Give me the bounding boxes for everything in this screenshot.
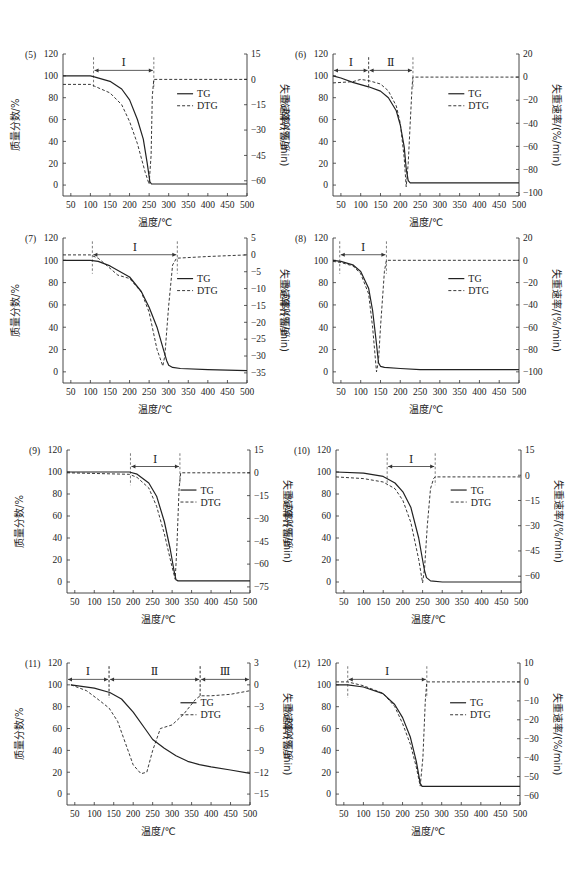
dtg-curve	[336, 682, 520, 786]
legend-dtg: DTG	[200, 497, 221, 508]
y-left-tick-label: 120	[317, 445, 332, 455]
stage-label: Ⅲ	[220, 665, 231, 677]
legend-dtg: DTG	[470, 709, 491, 720]
y-right-tick-label: −60	[525, 571, 540, 581]
y-right-tick-label: −60	[523, 142, 538, 152]
x-tick-label: 400	[201, 387, 216, 397]
y-right-tick-label: −15	[251, 100, 266, 110]
y-left-tick-label: 0	[326, 577, 331, 587]
x-axis-label: 温度/℃	[138, 216, 173, 228]
stage-label: Ⅰ	[122, 56, 126, 68]
tg-curve	[67, 472, 250, 581]
dtg-curve	[63, 79, 247, 184]
dtg-curve	[336, 477, 521, 583]
tg-curve	[63, 260, 247, 370]
y-left-tick-label: 100	[44, 256, 59, 266]
y-right-tick-label: −30	[251, 125, 266, 135]
panel-id: (6)	[295, 50, 306, 61]
y-left-tick-label: 80	[49, 93, 59, 103]
legend-tg: TG	[468, 273, 481, 284]
y-right-tick-label: −80	[523, 345, 538, 355]
legend-tg: TG	[200, 485, 213, 496]
x-tick-label: 500	[512, 387, 527, 397]
y-left-axis-label: 质量分数/%	[282, 495, 294, 548]
legend: TGDTG	[448, 88, 489, 111]
y-left-tick-label: 80	[322, 489, 332, 499]
y-left-tick-label: 100	[317, 467, 332, 477]
legend: TGDTG	[448, 273, 489, 296]
y-right-tick-label: 0	[525, 471, 530, 481]
x-tick-label: 200	[122, 200, 137, 210]
y-right-tick-label: 0	[523, 256, 528, 266]
y-left-axis-label: 质量分数/%	[279, 99, 291, 152]
stage-label: Ⅱ	[387, 56, 394, 68]
y-left-tick-label: 100	[48, 467, 63, 477]
y-right-tick-label: −100	[523, 188, 543, 198]
x-tick-label: 350	[181, 387, 196, 397]
x-tick-label: 450	[220, 387, 235, 397]
y-left-tick-label: 0	[326, 789, 331, 799]
legend-dtg: DTG	[471, 497, 492, 508]
x-tick-label: 250	[415, 809, 430, 819]
y-left-tick-label: 60	[53, 724, 63, 734]
stage-label: Ⅰ	[86, 665, 90, 677]
y-left-tick-label: 0	[323, 367, 328, 377]
y-left-tick-label: 40	[49, 137, 59, 147]
y-right-tick-label: 15	[251, 49, 261, 59]
x-tick-label: 100	[356, 809, 371, 819]
y-left-tick-label: 80	[53, 489, 63, 499]
y-right-tick-label: 20	[523, 49, 533, 59]
x-tick-label: 50	[339, 809, 349, 819]
y-right-tick-label: 0	[251, 250, 256, 260]
y-left-tick-label: 120	[44, 233, 59, 243]
x-tick-label: 450	[492, 387, 507, 397]
stage-label: Ⅰ	[153, 453, 157, 465]
y-left-tick-label: 20	[319, 159, 329, 169]
y-right-tick-label: −20	[251, 318, 266, 328]
legend-tg: TG	[468, 88, 481, 99]
y-right-axis-label: 失重速率/(%/min)	[551, 84, 563, 167]
legend-dtg: DTG	[468, 285, 489, 296]
x-tick-label: 300	[165, 597, 180, 607]
dtg-curve	[333, 260, 519, 372]
x-tick-label: 450	[220, 200, 235, 210]
y-right-tick-label: −50	[524, 772, 539, 782]
y-left-tick-label: 40	[322, 533, 332, 543]
x-tick-label: 350	[455, 597, 470, 607]
x-tick-label: 450	[492, 200, 507, 210]
stage-label: Ⅰ	[409, 453, 413, 465]
x-tick-label: 200	[122, 387, 137, 397]
x-tick-label: 500	[243, 597, 258, 607]
legend-tg: TG	[200, 697, 213, 708]
y-left-tick-label: 60	[49, 115, 59, 125]
stage-label: Ⅰ	[361, 241, 365, 253]
x-tick-label: 100	[87, 809, 102, 819]
legend-tg: TG	[470, 697, 483, 708]
legend: TGDTG	[177, 273, 218, 296]
y-left-tick-label: 40	[53, 746, 63, 756]
x-tick-label: 500	[240, 200, 255, 210]
x-tick-label: 150	[107, 597, 122, 607]
y-right-axis-label: 失重速率/(%/min)	[552, 693, 564, 776]
y-left-axis-label: 质量分数/%	[9, 284, 21, 337]
axes-frame	[333, 54, 519, 196]
y-right-tick-label: 0	[524, 677, 529, 687]
y-right-tick-label: 0	[251, 75, 256, 85]
x-tick-label: 350	[454, 809, 469, 819]
x-tick-label: 400	[475, 597, 490, 607]
x-tick-label: 500	[513, 809, 528, 819]
y-left-axis-label: 质量分数/%	[13, 495, 25, 548]
y-right-tick-label: −60	[524, 791, 539, 801]
y-left-tick-label: 80	[319, 278, 329, 288]
y-left-tick-label: 120	[48, 658, 63, 668]
panel-id: (9)	[29, 446, 40, 457]
y-right-tick-label: −5	[251, 267, 261, 277]
y-left-tick-label: 100	[44, 71, 59, 81]
x-tick-label: 450	[494, 597, 509, 607]
x-tick-label: 50	[339, 597, 349, 607]
x-axis-label: 温度/℃	[141, 613, 176, 625]
x-tick-label: 150	[373, 387, 388, 397]
x-tick-label: 350	[184, 809, 199, 819]
x-tick-label: 150	[373, 200, 388, 210]
x-tick-label: 500	[240, 387, 255, 397]
